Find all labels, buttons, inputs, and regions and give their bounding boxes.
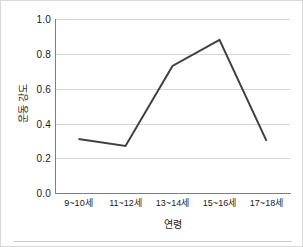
series-line xyxy=(79,40,267,146)
series-line-group xyxy=(0,0,303,247)
line-chart: 1.0 0.8 0.6 0.4 0.2 0.0 운동 강도 9~10세 11~1… xyxy=(0,0,303,247)
page-bottom-rule xyxy=(14,241,292,242)
x-tick-label: 17~18세 xyxy=(219,198,303,209)
x-axis-title: 연령 xyxy=(55,216,290,231)
figure-page: 1.0 0.8 0.6 0.4 0.2 0.0 운동 강도 9~10세 11~1… xyxy=(0,0,303,247)
